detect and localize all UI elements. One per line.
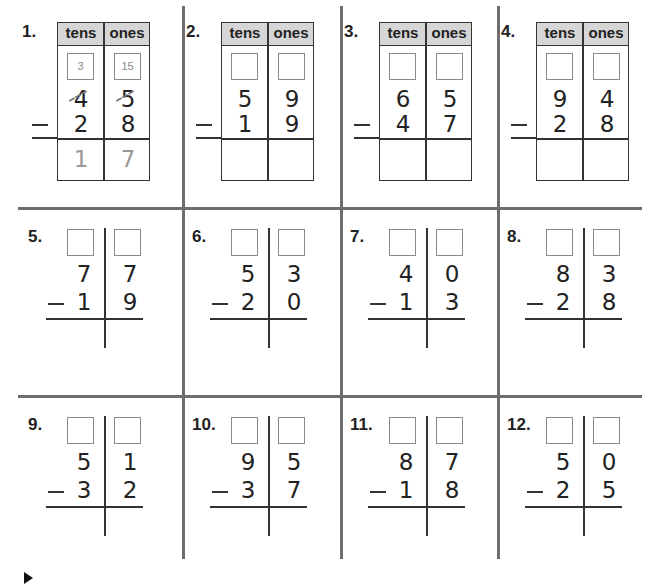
regroup-ones-box[interactable] <box>436 53 463 80</box>
minuend-ones: 3 <box>594 262 624 286</box>
column-divider <box>582 23 584 180</box>
answer-tens[interactable]: 1 <box>66 147 96 171</box>
problem-10: 10. 9 5 3 7 <box>184 397 341 585</box>
subtrahend-ones: 7 <box>279 478 309 502</box>
tens-header: tens <box>222 24 268 41</box>
minus-sign <box>32 124 48 126</box>
regroup-tens-box[interactable] <box>389 229 416 256</box>
subtrahend-ones: 9 <box>277 112 307 136</box>
column-divider <box>268 416 270 536</box>
ones-header: ones <box>268 24 314 41</box>
subtrahend-tens: 1 <box>230 112 260 136</box>
regroup-ones-box[interactable] <box>114 417 141 444</box>
regroup-ones-box[interactable] <box>593 53 620 80</box>
subtrahend-ones: 0 <box>279 290 309 314</box>
minuend-ones: 0 <box>594 450 624 474</box>
subtraction-line <box>210 506 307 508</box>
minus-sign <box>527 491 543 493</box>
regroup-ones-box[interactable] <box>278 417 305 444</box>
regroup-ones-box[interactable] <box>593 417 620 444</box>
subtrahend-tens: 3 <box>233 478 263 502</box>
column-divider <box>426 228 428 348</box>
subtraction-line <box>46 318 143 320</box>
problem-number: 12. <box>507 415 531 435</box>
ones-header: ones <box>426 24 472 41</box>
regroup-ones-box[interactable] <box>278 53 305 80</box>
subtrahend-ones: 8 <box>437 478 467 502</box>
regroup-tens-box[interactable] <box>67 417 94 444</box>
regroup-tens-box[interactable] <box>546 229 573 256</box>
minuend-ones: 0 <box>437 262 467 286</box>
tens-header: tens <box>380 24 426 41</box>
minuend-tens: 5 <box>230 87 260 111</box>
subtraction-line <box>46 506 143 508</box>
subtrahend-ones: 8 <box>592 112 622 136</box>
regroup-tens-box[interactable] <box>231 53 258 80</box>
answer-row-line <box>222 138 313 140</box>
minuend-tens: 8 <box>391 450 421 474</box>
problem-3: 3. tens ones 6 5 4 7 <box>342 0 499 188</box>
minuend-tens: 9 <box>233 450 263 474</box>
place-value-table: tens ones 3 15 4 5 2 8 1 7 <box>57 22 150 181</box>
regroup-tens-box[interactable] <box>67 229 94 256</box>
minuend-tens: 9 <box>545 87 575 111</box>
subtraction-line <box>525 318 622 320</box>
problem-number: 10. <box>192 415 216 435</box>
tens-header: tens <box>58 24 104 41</box>
place-value-table: tens ones 6 5 4 7 <box>379 22 472 181</box>
subtraction-line <box>525 506 622 508</box>
problem-9: 9. 5 1 3 2 <box>20 397 177 585</box>
answer-ones[interactable]: 7 <box>113 147 143 171</box>
minuend-ones: 3 <box>279 262 309 286</box>
regroup-ones-box[interactable] <box>114 229 141 256</box>
subtraction-line <box>368 506 465 508</box>
minus-sign <box>212 491 228 493</box>
regroup-tens-box[interactable] <box>389 53 416 80</box>
minuend-ones: 5 <box>435 87 465 111</box>
minus-sign <box>370 491 386 493</box>
minuend-tens: 5 <box>548 450 578 474</box>
subtrahend-tens: 2 <box>548 290 578 314</box>
subtrahend-tens: 4 <box>388 112 418 136</box>
answer-row-line <box>537 138 628 140</box>
place-value-table: tens ones 5 9 1 9 <box>221 22 314 181</box>
problem-1: 1. tens ones 3 15 4 5 2 8 1 7 <box>20 0 177 188</box>
minuend-tens: 5 <box>69 450 99 474</box>
regroup-ones-box[interactable]: 15 <box>114 53 141 80</box>
regroup-tens-box[interactable] <box>546 417 573 444</box>
regroup-tens-box[interactable] <box>546 53 573 80</box>
problem-4: 4. tens ones 9 4 2 8 <box>499 0 648 188</box>
problem-number: 8. <box>507 227 521 247</box>
subtrahend-ones: 3 <box>437 290 467 314</box>
regroup-tens-box[interactable] <box>231 417 258 444</box>
problem-12: 12. 5 0 2 5 <box>499 397 648 585</box>
subtrahend-tens: 2 <box>66 112 96 136</box>
minus-sign <box>48 491 64 493</box>
subtrahend-tens: 1 <box>391 290 421 314</box>
problem-number: 11. <box>350 415 373 435</box>
place-value-table: tens ones 9 4 2 8 <box>536 22 629 181</box>
regroup-tens-box[interactable]: 3 <box>67 53 94 80</box>
problem-number: 6. <box>192 227 206 247</box>
regroup-ones-box[interactable] <box>593 229 620 256</box>
subtraction-line <box>210 318 307 320</box>
answer-row-line <box>58 138 149 140</box>
regroup-tens-box[interactable] <box>231 229 258 256</box>
minus-sign <box>354 124 370 126</box>
subtraction-line-extension <box>32 137 58 139</box>
subtrahend-tens: 1 <box>69 290 99 314</box>
subtrahend-ones: 7 <box>435 112 465 136</box>
regroup-tens-box[interactable] <box>389 417 416 444</box>
column-divider <box>583 416 585 536</box>
regroup-ones-box[interactable] <box>436 229 463 256</box>
subtrahend-ones: 8 <box>594 290 624 314</box>
problem-number: 9. <box>28 415 42 435</box>
regroup-ones-box[interactable] <box>436 417 463 444</box>
problem-number: 1. <box>22 22 36 42</box>
subtrahend-tens: 2 <box>545 112 575 136</box>
regroup-ones-box[interactable] <box>278 229 305 256</box>
problem-2: 2. tens ones 5 9 1 9 <box>184 0 341 188</box>
subtraction-line-extension <box>196 137 222 139</box>
problem-number: 7. <box>350 227 364 247</box>
minuend-ones: 9 <box>277 87 307 111</box>
